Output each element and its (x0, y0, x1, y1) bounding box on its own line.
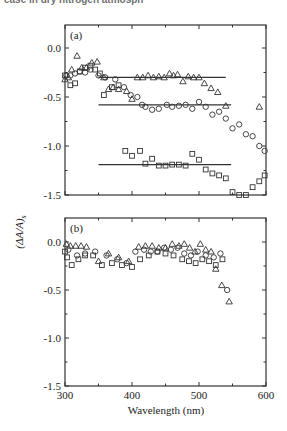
square-marker (223, 176, 228, 181)
square-marker (110, 261, 115, 266)
triangle-marker (169, 241, 175, 247)
triangle-marker (219, 282, 225, 288)
series-squares (63, 63, 267, 197)
square-marker (180, 257, 185, 262)
square-marker (257, 179, 262, 184)
square-marker (190, 151, 195, 156)
circle-marker (224, 287, 229, 292)
triangle-marker (208, 85, 214, 91)
triangle-marker (94, 59, 100, 65)
y-tick-label: 0.0 (47, 42, 61, 54)
circle-marker (135, 94, 140, 99)
square-marker (163, 251, 168, 256)
circle-marker (190, 106, 195, 111)
circle-marker (66, 247, 71, 252)
square-marker (73, 81, 78, 86)
square-marker (197, 157, 202, 162)
circle-marker (243, 132, 248, 137)
triangle-marker (136, 244, 142, 250)
circle-marker (237, 122, 242, 127)
x-tick-label: 400 (124, 389, 141, 401)
circle-marker (82, 70, 87, 75)
y-tick-label: 0.0 (47, 236, 61, 248)
panel-label: (a) (70, 29, 83, 42)
circle-marker (121, 85, 126, 90)
series-triangles (63, 241, 232, 304)
square-marker (210, 171, 215, 176)
circle-marker (203, 253, 208, 258)
circle-marker (168, 247, 173, 252)
circle-marker (188, 253, 193, 258)
square-marker (187, 259, 192, 264)
series-triangles (62, 53, 263, 110)
x-axis-label: Wavelength (nm) (128, 404, 205, 417)
triangle-marker (203, 246, 209, 252)
triangle-marker (201, 80, 207, 86)
triangle-marker (181, 241, 187, 247)
square-marker (69, 263, 74, 268)
panel-a: 0.0-0.5-1.0-1.5(a) (44, 25, 268, 201)
y-tick-label: -1.0 (44, 332, 62, 344)
square-marker (193, 261, 198, 266)
y-axis-label: (ΔA/A)s (13, 215, 28, 248)
panel-label: (b) (70, 222, 83, 235)
square-marker (150, 156, 155, 161)
triangle-marker (223, 103, 229, 109)
circle-marker (133, 249, 138, 254)
triangle-marker (83, 244, 89, 250)
triangle-marker (256, 104, 262, 110)
circle-marker (82, 251, 87, 256)
circle-marker (230, 126, 235, 131)
circle-marker (223, 116, 228, 121)
square-marker (156, 163, 161, 168)
circle-marker (196, 99, 201, 104)
square-marker (250, 185, 255, 190)
circle-marker (257, 143, 262, 148)
circle-marker (218, 251, 223, 256)
square-marker (143, 161, 148, 166)
square-marker (138, 149, 143, 154)
plot-frame (65, 25, 266, 195)
circle-marker (141, 247, 146, 252)
square-marker (203, 167, 208, 172)
y-tick-label: -1.5 (44, 189, 62, 201)
plot-frame (65, 218, 266, 386)
circle-marker (128, 92, 133, 97)
square-marker (68, 83, 73, 88)
triangle-marker (74, 53, 80, 59)
x-tick-label: 600 (258, 389, 275, 401)
square-marker (183, 163, 188, 168)
y-tick-label: -0.5 (44, 284, 62, 296)
circle-marker (182, 251, 187, 256)
circle-marker (250, 134, 255, 139)
x-tick-label: 300 (57, 389, 74, 401)
triangle-marker (149, 243, 155, 249)
triangle-marker (156, 73, 162, 79)
triangle-marker (185, 73, 191, 79)
square-marker (220, 257, 225, 262)
circle-marker (210, 112, 215, 117)
spectral-chart: 0.0-0.5-1.0-1.5(a) 0.0-0.5-1.0-1.5(b)300… (0, 0, 287, 431)
y-tick-label: -1.0 (44, 140, 62, 152)
square-marker (130, 265, 135, 270)
square-marker (101, 93, 106, 98)
triangle-marker (226, 298, 232, 304)
square-marker (163, 163, 168, 168)
square-marker (171, 253, 176, 258)
triangle-marker (174, 71, 180, 77)
x-tick-label: 500 (191, 389, 208, 401)
square-marker (138, 257, 143, 262)
square-marker (123, 149, 128, 154)
circle-marker (176, 103, 181, 108)
square-marker (217, 173, 222, 178)
circle-marker (74, 253, 79, 258)
circle-marker (156, 106, 161, 111)
triangle-marker (78, 243, 84, 249)
square-marker (207, 259, 212, 264)
panel-b: 0.0-0.5-1.0-1.5(b)300400500600 (44, 218, 275, 401)
triangle-marker (197, 241, 203, 247)
circle-marker (149, 107, 154, 112)
y-tick-label: -0.5 (44, 91, 62, 103)
square-marker (130, 153, 135, 158)
circle-marker (216, 109, 221, 114)
